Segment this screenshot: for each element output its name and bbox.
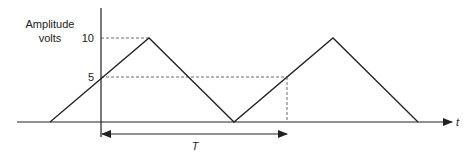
period-label: T (192, 140, 200, 152)
y-axis-label-line2: volts (39, 32, 62, 44)
y-axis-label-line1: Amplitude (26, 18, 75, 30)
x-axis-label: t (456, 116, 460, 128)
y-tick-5: 5 (88, 71, 94, 83)
triangular-waveform (50, 38, 418, 122)
y-tick-10: 10 (82, 32, 94, 44)
triangular-waveform-diagram: Amplitude volts 10 5 t T (0, 0, 471, 153)
